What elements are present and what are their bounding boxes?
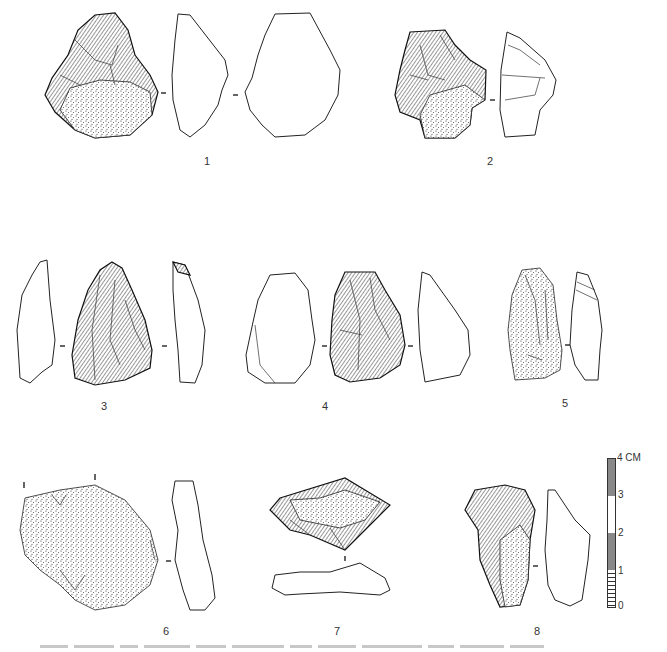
figure-label-8: 8 xyxy=(527,625,547,637)
figure-label-2: 2 xyxy=(480,155,500,167)
artifact-4 xyxy=(246,272,470,383)
artifact-8 xyxy=(465,485,590,607)
figure-label-7: 7 xyxy=(327,625,347,637)
artifact-1 xyxy=(45,13,340,138)
scale-label-2: 2 xyxy=(618,527,624,538)
artifact-6 xyxy=(20,474,215,610)
figure-label-3: 3 xyxy=(94,400,114,412)
scale-label-1: 1 xyxy=(618,565,624,576)
artifact-7 xyxy=(270,478,390,595)
figure-label-6: 6 xyxy=(156,625,176,637)
figure-label-1: 1 xyxy=(197,155,217,167)
scale-label-3: 3 xyxy=(618,489,624,500)
scale-bar xyxy=(607,458,616,608)
figure-label-5: 5 xyxy=(555,397,575,409)
artifact-5 xyxy=(508,268,602,380)
scale-label-top: 4 CM xyxy=(617,452,641,463)
illustration-plate: 1 2 3 4 5 6 7 8 4 CM 3 2 1 0 xyxy=(0,0,667,652)
figure-caption-cropped xyxy=(40,645,600,652)
artifact-drawings xyxy=(0,0,667,652)
figure-label-4: 4 xyxy=(315,400,335,412)
scale-bar-mm-ticks xyxy=(608,570,615,607)
artifact-2 xyxy=(395,30,556,138)
scale-label-0: 0 xyxy=(618,600,624,611)
artifact-3 xyxy=(17,260,205,385)
